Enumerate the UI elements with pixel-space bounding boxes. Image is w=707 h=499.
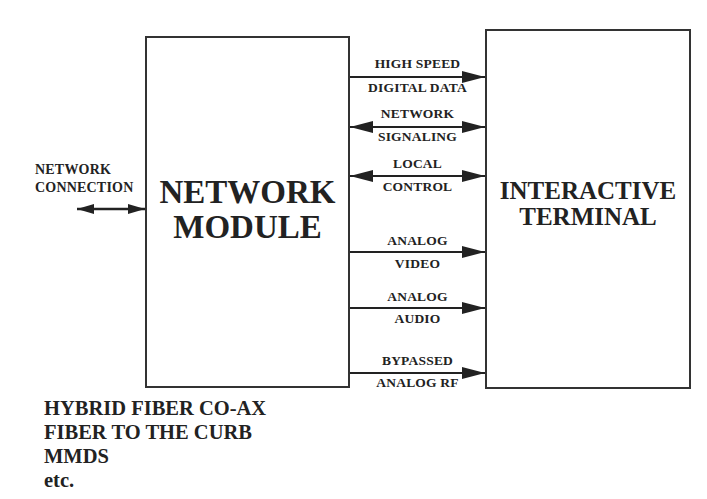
signal-label-top: ANALOG [350,289,485,305]
network-type-item: FIBER TO THE CURB [44,420,266,444]
network-connection-label-line1: NETWORK [35,161,133,179]
signal-label-bottom: SIGNALING [350,129,485,145]
signal-label-bottom: CONTROL [350,179,485,195]
signal-label-top: NETWORK [350,106,485,122]
network-type-item: HYBRID FIBER CO-AX [44,396,266,420]
signal-label-bottom: DIGITAL DATA [350,80,485,96]
signal-label-bottom: ANALOG RF [350,375,485,391]
signal-label-bottom: VIDEO [350,256,485,272]
network-connection-label-line2: CONNECTION [35,179,133,197]
network-connection-label: NETWORK CONNECTION [35,161,133,197]
network-type-item: etc. [44,468,266,492]
signal-label-top: ANALOG [350,233,485,249]
network-type-item: MMDS [44,444,266,468]
network-types-list: HYBRID FIBER CO-AX FIBER TO THE CURB MMD… [44,396,266,492]
signal-label-bottom: AUDIO [350,311,485,327]
signal-label-top: BYPASSED [350,353,485,369]
signal-label-top: LOCAL [350,156,485,172]
signal-label-top: HIGH SPEED [350,56,485,72]
network-connection-arrow [77,204,145,214]
